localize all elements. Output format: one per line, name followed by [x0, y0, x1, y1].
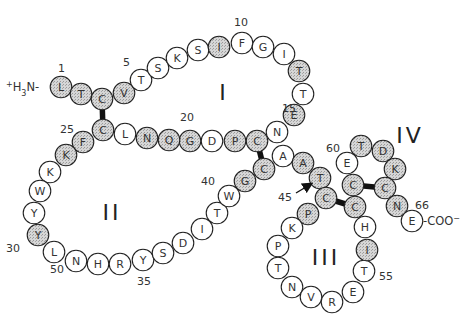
residue-letter: K	[46, 166, 54, 179]
residue-13: T	[288, 60, 310, 82]
residue-letter: N	[273, 126, 281, 139]
residue-letter: A	[279, 150, 287, 163]
residue-letter: R	[328, 296, 336, 309]
residue-66: E	[401, 210, 423, 232]
position-number: 35	[137, 275, 151, 288]
residue-letter: T	[316, 172, 324, 185]
loop-label-iv: IV	[396, 123, 424, 148]
residue-letter: C	[98, 93, 106, 106]
residue-34: R	[109, 253, 131, 275]
residue-letter: I	[200, 223, 203, 236]
peptide-chain-diagram: LTCVTSKSIFGITTENCPDGQNLCFKKWYYLNHRYSDITW…	[0, 0, 468, 324]
residue-58: C	[344, 196, 366, 218]
residue-letter: D	[179, 237, 187, 250]
residue-16: N	[266, 121, 288, 143]
position-number: 60	[326, 142, 340, 155]
position-number: 10	[234, 16, 248, 29]
residue-letter: Y	[30, 207, 38, 220]
residue-59: C	[342, 174, 364, 196]
residue-57: H	[354, 216, 376, 238]
residue-letter: P	[232, 135, 239, 148]
residue-letter: V	[120, 87, 128, 100]
residue-letter: W	[35, 185, 46, 198]
arrow-45	[296, 184, 311, 193]
residue-letter: V	[307, 291, 315, 304]
residue-letter: E	[350, 286, 357, 299]
residue-letter: L	[58, 81, 65, 94]
residue-letter: P	[305, 208, 312, 221]
residue-letter: T	[77, 88, 85, 101]
residue-letter: D	[379, 145, 387, 158]
residue-letter: C	[322, 192, 330, 205]
residue-30: Y	[27, 224, 49, 246]
residue-letter: K	[62, 149, 70, 162]
residue-7: K	[166, 47, 188, 69]
residue-53: R	[321, 291, 343, 313]
residue-letter: N	[288, 281, 296, 294]
residue-35: Y	[132, 249, 154, 271]
c-terminus-label: -COO−	[423, 214, 460, 229]
residue-letter: K	[288, 222, 296, 235]
position-number: 5	[123, 56, 130, 69]
position-number: 50	[50, 263, 64, 276]
residue-letter: H	[94, 258, 102, 271]
residue-letter: P	[275, 240, 282, 253]
residue-letter: T	[357, 140, 365, 153]
residue-letter: S	[160, 247, 167, 260]
residue-letter: R	[116, 258, 124, 271]
residue-letter: C	[253, 135, 261, 148]
residue-10: F	[231, 32, 253, 54]
position-number: 15	[282, 102, 296, 115]
residue-letter: L	[51, 246, 58, 259]
residue-41: G	[234, 170, 256, 192]
residue-letter: W	[224, 190, 235, 203]
residue-27: K	[39, 161, 61, 183]
residue-letter: A	[299, 157, 307, 170]
residue-letter: K	[173, 52, 181, 65]
residue-letter: T	[360, 265, 368, 278]
residue-letter: G	[259, 41, 268, 54]
residue-37: D	[172, 232, 194, 254]
residue-17: C	[246, 130, 268, 152]
residue-letter: F	[239, 37, 245, 50]
residue-44: A	[292, 152, 314, 174]
residue-8: S	[187, 39, 209, 61]
residue-51: N	[281, 276, 303, 298]
residue-letter: I	[217, 41, 220, 54]
residue-48: K	[281, 217, 303, 239]
residue-letter: T	[299, 88, 307, 101]
pointer-arrow-icon	[296, 184, 311, 193]
residue-42: C	[253, 158, 275, 180]
residue-letter: C	[260, 163, 268, 176]
residue-26: K	[55, 144, 77, 166]
residue-60: E	[336, 152, 358, 174]
residue-23: L	[114, 123, 136, 145]
residue-22: N	[136, 127, 158, 149]
position-number: 1	[58, 62, 65, 75]
residue-chain: LTCVTSKSIFGITTENCPDGQNLCFKKWYYLNHRYSDITW…	[23, 32, 423, 313]
position-number: 40	[201, 175, 215, 188]
residue-20: G	[179, 130, 201, 152]
residue-letter: N	[143, 132, 151, 145]
position-number: 30	[6, 242, 20, 255]
residue-letter: H	[361, 221, 369, 234]
residue-12: I	[273, 43, 295, 65]
residue-50: T	[267, 257, 289, 279]
residue-54: E	[342, 281, 364, 303]
residue-21: Q	[158, 129, 180, 151]
residue-9: I	[208, 36, 230, 58]
position-number: 55	[379, 270, 393, 283]
residue-letter: C	[99, 124, 107, 137]
residue-61: T	[350, 135, 372, 157]
residue-32: N	[65, 250, 87, 272]
residue-29: Y	[23, 202, 45, 224]
residue-letter: Q	[165, 134, 174, 147]
residue-letter: I	[282, 48, 285, 61]
loop-label-ii: II	[103, 200, 122, 225]
residue-letter: D	[208, 135, 216, 148]
loop-label-i: I	[219, 80, 229, 105]
residue-letter: S	[155, 62, 162, 75]
residue-55: T	[353, 260, 375, 282]
residue-46: C	[315, 187, 337, 209]
residue-letter: Y	[34, 229, 42, 242]
